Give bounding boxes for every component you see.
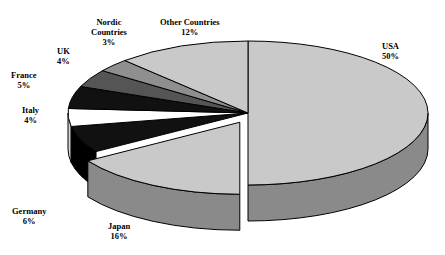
pie-slices-group bbox=[68, 41, 428, 230]
slice-label-uk-name: UK bbox=[57, 46, 70, 56]
slice-label-nordic: Nordic Countries 3% bbox=[91, 17, 127, 47]
slice-label-italy-pct: 4% bbox=[22, 115, 39, 125]
slice-label-germany: Germany 6% bbox=[12, 206, 46, 226]
slice-label-nordic-pct: 3% bbox=[91, 37, 127, 47]
slice-label-usa-name: USA bbox=[382, 41, 399, 51]
slice-label-france-pct: 5% bbox=[11, 80, 37, 90]
slice-label-japan-name: Japan bbox=[108, 221, 130, 231]
slice-label-nordic-name1: Nordic bbox=[91, 17, 127, 27]
slice-label-usa: USA 50% bbox=[382, 41, 399, 61]
slice-label-other-name: Other Countries bbox=[160, 17, 220, 27]
slice-label-usa-pct: 50% bbox=[382, 51, 399, 61]
slice-label-italy-name: Italy bbox=[22, 105, 39, 115]
slice-label-other: Other Countries 12% bbox=[160, 17, 220, 37]
slice-label-other-pct: 12% bbox=[160, 27, 220, 37]
slice-label-japan: Japan 16% bbox=[108, 221, 130, 241]
slice-label-france: France 5% bbox=[11, 70, 37, 90]
slice-label-japan-pct: 16% bbox=[108, 231, 130, 241]
slice-label-germany-name: Germany bbox=[12, 206, 46, 216]
slice-label-germany-pct: 6% bbox=[12, 216, 46, 226]
slice-label-italy: Italy 4% bbox=[22, 105, 39, 125]
slice-label-uk: UK 4% bbox=[57, 46, 70, 66]
slice-label-france-name: France bbox=[11, 70, 37, 80]
pie-chart-canvas bbox=[0, 0, 445, 255]
pie-chart-figure: USA 50% Japan 16% Germany 6% Italy 4% Fr… bbox=[0, 0, 445, 255]
slice-label-nordic-name2: Countries bbox=[91, 27, 127, 37]
slice-label-uk-pct: 4% bbox=[57, 56, 70, 66]
